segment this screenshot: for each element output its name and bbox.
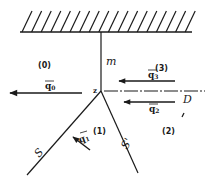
hatch-mark [118,11,128,32]
slip-line-label: D [182,93,192,106]
region-3-label: (3) [155,64,168,73]
velocity-q0-label: q0 [45,81,55,91]
hatch-mark [137,11,147,32]
velocity-q1-label: q1 [77,131,90,145]
stray-mark [182,113,184,117]
hatch-mark [176,11,186,32]
velocity-q2-label: q2 [149,104,159,114]
reflected-shock-line [101,91,138,173]
svg-text:q1: q1 [77,132,90,145]
mach-stem-label: m [106,55,116,68]
hatch-mark [147,11,157,32]
hatch-mark [41,11,51,32]
hatch-mark [108,11,118,32]
hatch-mark [22,11,32,32]
hatch-mark [70,11,80,32]
node-label: z [93,86,97,95]
region-0-label: (0) [38,61,51,70]
hatch-mark [166,11,176,32]
hatch-mark [51,11,61,32]
hatch-mark [128,11,138,32]
vector-bar-icon [80,131,87,133]
hatch-mark [89,11,99,32]
reflected-shock-label: S' [118,136,135,152]
hatch-mark [185,11,195,32]
region-1-label: (1) [93,127,106,136]
hatch-mark [60,11,70,32]
incident-shock-line [27,91,101,175]
wall [20,11,195,32]
incident-shock-label: S [32,145,47,160]
hatch-mark [99,11,109,32]
wall-hatching [22,11,195,32]
svg-text:q0: q0 [45,81,55,91]
shock-diagram: m z D S S' (0) (1) (2) (3) q0 q3 q2 q1 [0,0,215,187]
hatch-mark [156,11,166,32]
svg-text:q2: q2 [149,104,159,114]
region-2-label: (2) [162,127,175,136]
hatch-mark [32,11,42,32]
hatch-mark [80,11,90,32]
